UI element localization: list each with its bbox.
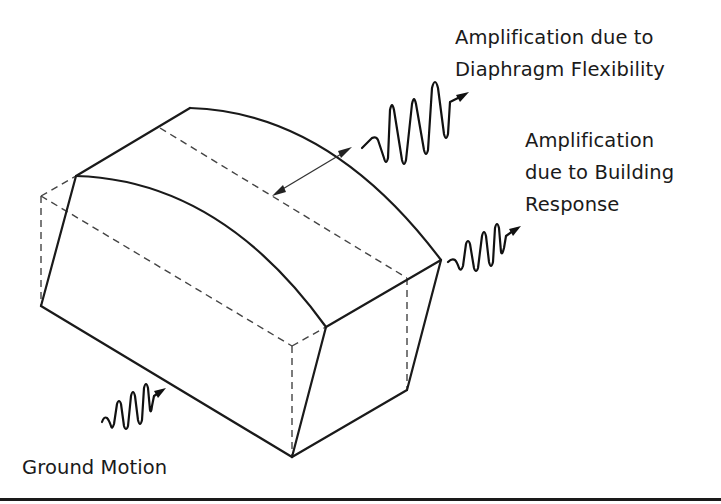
building-label-line3: Response xyxy=(525,189,674,221)
building-response-label: Amplification due to Building Response xyxy=(525,125,674,221)
diaphragm-label: Amplification due to Diaphragm Flexibili… xyxy=(455,22,665,86)
building-outline xyxy=(41,108,441,457)
ground-motion-text: Ground Motion xyxy=(22,452,167,484)
ground-wave-icon xyxy=(102,384,166,429)
diaphragm-label-line1: Amplification due to xyxy=(455,22,665,54)
building-label-line2: due to Building xyxy=(525,157,674,189)
diaphragm-wave-icon xyxy=(362,82,469,164)
building-wave-icon xyxy=(448,224,521,271)
bottom-rule xyxy=(0,498,721,501)
diaphragm-label-line2: Diaphragm Flexibility xyxy=(455,54,665,86)
ground-motion-label: Ground Motion xyxy=(22,452,167,484)
deflection-double-arrow xyxy=(272,147,352,196)
building-label-line1: Amplification xyxy=(525,125,674,157)
